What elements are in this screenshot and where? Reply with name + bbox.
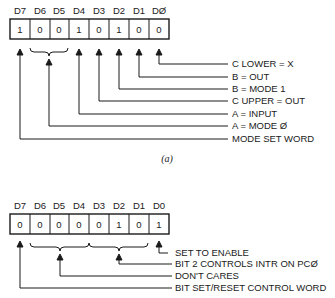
- bit-d5: 0: [56, 24, 61, 35]
- bit-d0: 1: [156, 219, 161, 230]
- label-bit2-controls: BIT 2 CONTROLS INTR ON PCØ: [175, 258, 318, 269]
- diagram-a: D7 D6 D5 D4 D3 D2 D1 DØ 1 0 0 1 0 1 0 0: [10, 5, 314, 165]
- label-mode-set-word: MODE SET WORD: [232, 133, 314, 144]
- bit-d3: 0: [96, 24, 101, 35]
- bit-d7: 1: [17, 24, 22, 35]
- header-d3: D3: [93, 5, 105, 16]
- bit-d6: 0: [37, 219, 42, 230]
- bit-d7: 0: [17, 219, 22, 230]
- header-d4: D4: [73, 5, 85, 16]
- brace-d3-d1: [89, 243, 148, 251]
- bit-d4: 1: [76, 24, 81, 35]
- header-d1: D1: [133, 5, 145, 16]
- header-d0: DØ: [152, 5, 167, 16]
- arrows-a: [17, 49, 228, 139]
- label-c-lower: C LOWER = X: [232, 58, 294, 69]
- label-dont-cares: DON'T CARES: [175, 270, 239, 281]
- brace-d6-d5: [30, 48, 68, 56]
- diagram-b: D7 D6 D5 D4 D3 D2 D1 D0 0 0 0 0 0 1 0 1: [10, 200, 326, 293]
- header-d1: D1: [133, 200, 145, 211]
- header-d5: D5: [53, 200, 65, 211]
- label-a-mode: A = MODE Ø: [232, 120, 288, 131]
- header-d2: D2: [113, 5, 125, 16]
- bit-d1: 0: [136, 24, 141, 35]
- bit-d2: 1: [116, 24, 121, 35]
- brace-d6-d4: [30, 243, 89, 251]
- header-d3: D3: [93, 200, 105, 211]
- header-d0: D0: [153, 200, 165, 211]
- header-d2: D2: [113, 200, 125, 211]
- header-d7: D7: [14, 5, 26, 16]
- bit-d4: 0: [76, 219, 81, 230]
- bit-d6: 0: [37, 24, 42, 35]
- label-b-mode: B = MODE 1: [232, 83, 286, 94]
- label-bsr-control-word: BIT SET/RESET CONTROL WORD: [175, 282, 326, 293]
- header-d6: D6: [34, 5, 46, 16]
- bit-d1: 0: [136, 219, 141, 230]
- header-d4: D4: [73, 200, 85, 211]
- caption-a: (a): [161, 153, 173, 165]
- label-b-out: B = OUT: [232, 71, 269, 82]
- header-d5: D5: [53, 5, 65, 16]
- bit-d2: 1: [116, 219, 121, 230]
- label-c-upper: C UPPER = OUT: [232, 95, 305, 106]
- control-word-diagram: D7 D6 D5 D4 D3 D2 D1 DØ 1 0 0 1 0 1 0 0: [0, 0, 335, 298]
- bit-d5: 0: [56, 219, 61, 230]
- header-d6: D6: [34, 200, 46, 211]
- arrows-b: [17, 241, 172, 288]
- header-d7: D7: [14, 200, 26, 211]
- bit-d3: 0: [96, 219, 101, 230]
- label-a-input: A = INPUT: [232, 108, 277, 119]
- label-set-to-enable: SET TO ENABLE: [175, 247, 249, 258]
- bit-d0: 0: [156, 24, 161, 35]
